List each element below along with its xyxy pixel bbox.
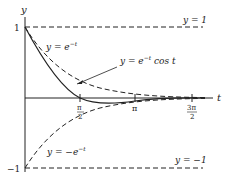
svg-text:2: 2	[190, 113, 194, 121]
svg-text:π: π	[77, 104, 82, 112]
t-axis-label: t	[217, 92, 222, 103]
y-tick-neg1: −1	[7, 164, 20, 174]
upper-envelope-label: y = e−t	[45, 40, 78, 52]
lower-envelope-label: y = −e−t	[46, 145, 86, 157]
damped-cosine-curve	[25, 27, 205, 103]
x-tick-pi-over-2-label: π 2	[77, 104, 84, 121]
upper-envelope-curve	[25, 27, 205, 98]
damped-cosine-label: y = e−t cos t	[119, 54, 176, 66]
y-tick-1: 1	[14, 23, 20, 33]
x-tick-pi-label: π	[132, 104, 137, 113]
y-axis-label: y	[20, 4, 27, 15]
leader-arrowhead-icon	[77, 80, 83, 84]
damped-cosine-diagram: y t 1 −1 π 2 π 3π 2 y = e−t y = e−t cos …	[0, 0, 232, 182]
svg-text:2: 2	[78, 113, 82, 121]
x-tick-3pi-over-2-label: 3π 2	[187, 104, 197, 121]
svg-text:3π: 3π	[187, 104, 196, 112]
asymptote-y-1-label: y = 1	[182, 15, 207, 25]
asymptote-y-neg1-label: y = −1	[174, 155, 207, 165]
damped-cosine-leader	[77, 67, 117, 84]
